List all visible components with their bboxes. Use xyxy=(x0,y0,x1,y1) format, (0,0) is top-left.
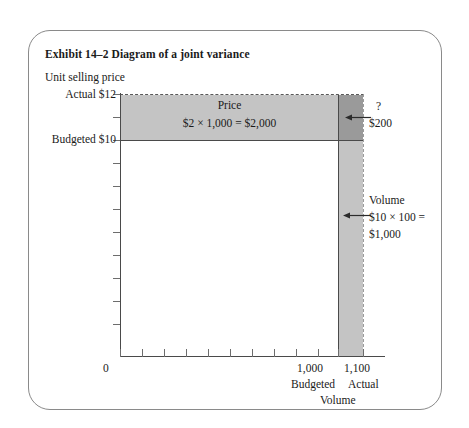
x-axis-tick xyxy=(186,349,187,357)
actual-price-reference-line xyxy=(120,94,364,95)
x-axis-budgeted-value: 1,000 xyxy=(297,362,323,374)
actual-volume-reference-line xyxy=(363,94,364,357)
x-axis-tick xyxy=(318,349,319,357)
y-axis-budgeted-label: Budgeted $10 xyxy=(52,133,116,145)
price-region-formula: $2 × 1,000 = $2,000 xyxy=(121,117,338,129)
x-axis-budgeted-caption: Budgeted xyxy=(291,378,335,390)
joint-variance-marker: ? xyxy=(376,100,381,112)
x-axis-tick xyxy=(338,349,339,357)
joint-variance-amount: $200 xyxy=(369,117,392,129)
y-axis-tick xyxy=(113,232,120,233)
page-title: Exhibit 14–2 Diagram of a joint variance xyxy=(45,48,250,60)
volume-region-label: Volume xyxy=(369,194,405,206)
x-axis-zero-label: 0 xyxy=(103,362,109,374)
y-axis-tick xyxy=(113,324,120,325)
volume-region-formula: $10 × 100 = xyxy=(369,211,425,223)
y-axis-tick xyxy=(113,209,120,210)
x-axis-tick xyxy=(230,349,231,357)
y-axis-tick xyxy=(113,117,120,118)
x-axis-tick xyxy=(363,349,364,357)
y-axis-actual-label: Actual $12 xyxy=(65,88,116,100)
budgeted-price-reference-line xyxy=(120,140,364,141)
y-axis-title: Unit selling price xyxy=(45,71,125,83)
x-axis-tick xyxy=(120,349,121,357)
y-axis-tick xyxy=(113,255,120,256)
x-axis-tick xyxy=(296,349,297,357)
volume-variance-arrow xyxy=(343,211,371,220)
x-axis-tick xyxy=(252,349,253,357)
volume-region-amount: $1,000 xyxy=(369,228,401,240)
x-axis-tick xyxy=(164,349,165,357)
joint-variance-arrow xyxy=(345,113,371,122)
y-axis-tick xyxy=(113,186,120,187)
y-axis-tick xyxy=(113,163,120,164)
x-axis-actual-value: 1,100 xyxy=(344,362,370,374)
figure-page: Exhibit 14–2 Diagram of a joint variance… xyxy=(0,0,469,428)
price-region-label: Price xyxy=(121,99,338,111)
y-axis-tick xyxy=(113,301,120,302)
x-axis-title: Volume xyxy=(320,394,356,406)
x-axis-tick xyxy=(208,349,209,357)
x-axis-tick xyxy=(274,349,275,357)
y-axis-tick xyxy=(113,278,120,279)
y-axis-line xyxy=(120,93,121,357)
x-axis-actual-caption: Actual xyxy=(348,378,379,390)
volume-variance-region xyxy=(338,140,363,356)
x-axis-tick xyxy=(142,349,143,357)
budgeted-volume-reference-line xyxy=(338,95,339,357)
